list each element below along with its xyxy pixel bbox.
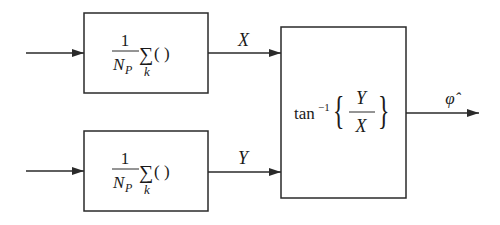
arctan-block: tan −1 { Y X } [281, 27, 406, 198]
close-brace-icon: } [378, 87, 389, 132]
signal-y-label: Y [238, 148, 250, 168]
arctan-numerator: Y [356, 88, 368, 108]
block-top-denominator: N [112, 55, 126, 74]
block-top-denominator-sub: P [124, 63, 133, 77]
signal-x-label: X [237, 30, 250, 50]
block-bottom-operand: ( ) [154, 162, 170, 181]
arctan-denominator: X [355, 116, 368, 136]
averaging-block-top: 1 N P ∑ k ( ) [84, 13, 208, 93]
block-diagram: 1 N P ∑ k ( ) 1 N P ∑ k ( ) X Y tan −1 {… [0, 0, 500, 225]
block-bottom-denominator-sub: P [124, 181, 133, 195]
arctan-func-sup: −1 [318, 101, 330, 113]
block-top-numerator: 1 [121, 31, 130, 50]
sum-icon-bottom: ∑ [139, 161, 153, 184]
block-bottom-denominator: N [112, 173, 126, 192]
output-phi-hat-label: φ̂ [445, 89, 461, 108]
block-bottom-numerator: 1 [121, 149, 130, 168]
block-top-operand: ( ) [154, 44, 170, 63]
block-bottom-sum-index: k [144, 182, 150, 197]
arctan-func: tan [294, 104, 315, 123]
averaging-block-bottom: 1 N P ∑ k ( ) [84, 131, 208, 211]
open-brace-icon: { [333, 87, 344, 132]
sum-icon-top: ∑ [139, 43, 153, 66]
block-top-sum-index: k [144, 64, 150, 79]
